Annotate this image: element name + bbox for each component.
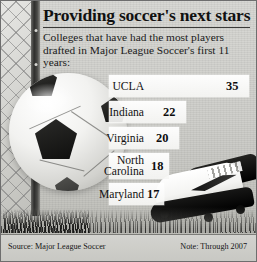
subtitle-line-1: Colleges that have had the most players xyxy=(43,31,250,44)
bar-value-maryland: 17 xyxy=(147,183,159,205)
chart-row: Indiana 22 xyxy=(1,101,256,123)
bar-value-north-carolina: 18 xyxy=(151,153,163,179)
chart-row: Virginia 20 xyxy=(1,127,256,149)
bar-value-virginia: 20 xyxy=(156,127,168,149)
bar-label-ucla: UCLA xyxy=(79,75,149,97)
bar-label-line-2: Carolina xyxy=(104,166,144,177)
bar-value-indiana: 22 xyxy=(163,101,175,123)
note-text: Note: Through 2007 xyxy=(180,242,247,251)
footer: Source: Major League Soccer Note: Throug… xyxy=(1,234,256,261)
infographic-root: Providing soccer's next stars Colleges t… xyxy=(0,0,257,262)
bar-label-virginia: Virginia xyxy=(79,127,149,149)
header: Providing soccer's next stars Colleges t… xyxy=(43,5,250,69)
chart-row: Maryland 17 xyxy=(1,183,256,205)
bar-chart: UCLA 35 Indiana 22 Virginia 20 North Car… xyxy=(1,75,256,205)
chart-row: UCLA 35 xyxy=(1,75,256,97)
bar-label-indiana: Indiana xyxy=(79,101,149,123)
bar-label-north-carolina: North Carolina xyxy=(71,153,149,179)
chart-row: North Carolina 18 xyxy=(1,153,256,179)
title-rule xyxy=(43,27,250,28)
source-text: Source: Major League Soccer xyxy=(8,242,106,251)
bar-value-ucla: 35 xyxy=(226,75,238,97)
subtitle-line-2: drafted in Major League Soccer's first 1… xyxy=(43,44,250,69)
page-title: Providing soccer's next stars xyxy=(43,5,250,25)
bar-label-maryland: Maryland xyxy=(63,183,149,205)
subtitle: Colleges that have had the most players … xyxy=(43,31,250,69)
grass-foreground-graphic xyxy=(3,209,89,233)
